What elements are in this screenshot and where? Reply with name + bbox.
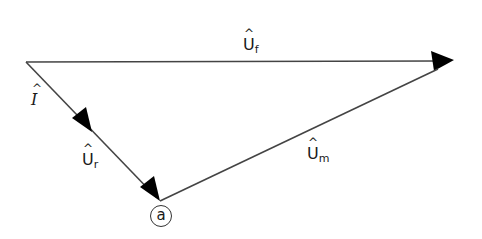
- arrowhead-uf: [431, 51, 454, 71]
- arrowhead-ur: [140, 176, 160, 201]
- vector-um: [160, 69, 438, 201]
- label-um: Um: [307, 146, 329, 164]
- phasor-diagram: [0, 0, 482, 239]
- point-marker-a: a: [150, 205, 172, 227]
- vector-uf: [26, 61, 436, 62]
- label-uf: Uf: [243, 37, 259, 55]
- arrowhead-i: [72, 107, 92, 132]
- label-ur: Ur: [82, 152, 98, 170]
- label-i: I: [31, 92, 37, 108]
